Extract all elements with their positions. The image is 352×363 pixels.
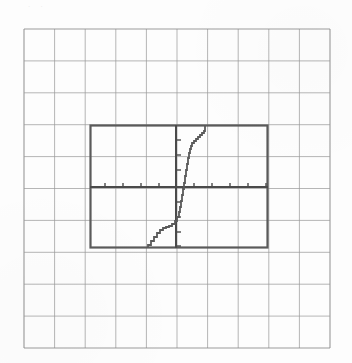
- scanned-page: . .: [0, 0, 352, 363]
- y-axis-ticks: [177, 140, 182, 246]
- calculator-screen-plot: [0, 0, 352, 363]
